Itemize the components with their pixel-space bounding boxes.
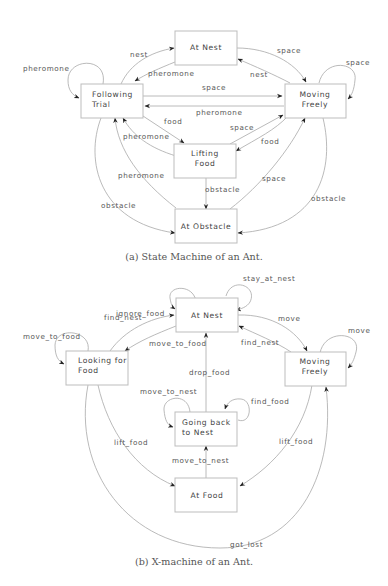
state-b-looking-for-food-label-1: Looking for (78, 356, 127, 365)
label-a-obstacle-lf-ao: obstacle (205, 185, 240, 194)
state-a-at-obstacle-label: At Obstacle (181, 222, 231, 231)
figure-b-x-machine: ignore_food stay_at_nest find_nest move_… (23, 274, 370, 567)
label-b-lift-food-mf: lift_food (279, 437, 313, 446)
state-b-moving-freely-label-1: Moving (299, 357, 330, 366)
state-b-moving-freely: Moving Freely (285, 352, 346, 386)
label-b-got-lost: got_lost (230, 540, 263, 549)
state-b-going-back-label-1: Going back (182, 418, 231, 427)
label-b-stay-at-nest: stay_at_nest (243, 274, 295, 283)
label-b-move-to-nest-af: move_to_nest (172, 456, 229, 465)
state-a-at-obstacle: At Obstacle (175, 209, 237, 243)
label-b-move-to-nest-self: move_to_nest (140, 387, 197, 396)
state-b-going-back-to-nest: Going back to Nest (175, 412, 237, 446)
state-a-following-trial-label-1: Following (92, 90, 133, 99)
state-b-at-food: At Food (175, 478, 237, 512)
label-b-lift-food-lf: lift_food (114, 438, 148, 447)
label-a-obstacle-ft-ao: obstacle (101, 201, 136, 210)
state-b-at-food-label: At Food (191, 491, 224, 500)
state-a-moving-freely-label-2: Freely (302, 100, 328, 109)
state-b-moving-freely-label-2: Freely (302, 367, 328, 376)
state-b-looking-for-food-label-2: Food (78, 366, 99, 375)
label-a-space-lf-mf: space (230, 123, 254, 132)
label-a-food-mf-lf: food (261, 137, 279, 146)
state-b-going-back-label-2: to Nest (182, 428, 214, 437)
label-b-move: move (278, 314, 300, 323)
label-a-pheromone-self: pheromone (23, 64, 70, 73)
state-a-lifting-food-label-2: Food (195, 159, 216, 168)
state-a-following-trial: Following Trial (81, 84, 143, 118)
state-a-lifting-food-label-1: Lifting (191, 149, 219, 158)
label-b-find-nest-mf-an: find_nest (241, 338, 279, 347)
label-a-pheromone-an-ft: pheromone (148, 69, 195, 78)
state-a-lifting-food: Lifting Food (174, 144, 236, 178)
state-a-moving-freely-label-1: Moving (299, 90, 330, 99)
label-b-move-to-food-self: move_to_food (23, 332, 81, 341)
figure-a-state-machine: pheromone nest pheromone space nest spac… (23, 31, 370, 262)
label-a-space-ao-mf: space (262, 174, 286, 183)
label-a-pheromone-ao-ft: pheromone (118, 171, 165, 180)
label-a-space-an-mf: space (277, 46, 301, 55)
label-a-pheromone-mf-ft: pheromone (196, 108, 243, 117)
figure-a-edge-labels: pheromone nest pheromone space nest spac… (23, 46, 370, 210)
label-b-move-self: move (348, 326, 370, 335)
label-a-nest-ft-an: nest (130, 50, 148, 59)
state-a-at-nest-label: At Nest (190, 43, 222, 52)
label-a-space-ft-mf: space (202, 83, 226, 92)
state-a-following-trial-label-2: Trial (91, 100, 111, 109)
label-a-nest-mf-an: nest (250, 70, 268, 79)
label-b-drop-food: drop_food (189, 368, 230, 377)
figure-canvas: pheromone nest pheromone space nest spac… (0, 0, 388, 586)
label-a-space-self: space (346, 58, 370, 67)
state-b-looking-for-food: Looking for Food (66, 351, 128, 385)
label-b-find-nest-lf-an: find_nest (104, 313, 142, 322)
label-a-food-ft-lf: food (164, 117, 182, 126)
state-a-at-nest: At Nest (175, 31, 237, 65)
label-a-obstacle-mf-ao: obstacle (311, 194, 346, 203)
edge-b-lf-af-lift-food (98, 385, 175, 486)
caption-a: (a) State Machine of an Ant. (125, 251, 262, 262)
label-b-move-to-food-an-lf: move_to_food (149, 339, 207, 348)
edge-b-lf-mf-got-lost (85, 385, 327, 548)
state-b-at-nest-label: At Nest (191, 311, 223, 320)
label-a-pheromone-lf-ft: pheromone (123, 132, 170, 141)
state-a-moving-freely: Moving Freely (285, 84, 346, 118)
caption-b: (b) X-machine of an Ant. (135, 556, 253, 567)
state-b-at-nest: At Nest (176, 298, 238, 332)
label-b-find-food: find_food (251, 397, 290, 406)
